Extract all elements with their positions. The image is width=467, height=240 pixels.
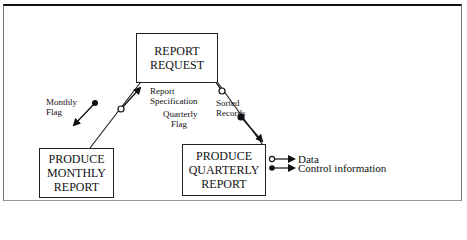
node-label: REPORT <box>154 44 199 58</box>
legend-data-symbol <box>269 156 294 161</box>
node-label: PRODUCE <box>196 149 252 163</box>
quarterly-flag-label: Quarterly Flag <box>163 109 197 129</box>
monthly-flag-label: Monthly Flag <box>46 97 77 117</box>
legend-control-symbol <box>269 165 294 171</box>
legend-control-label: Control information <box>298 162 386 174</box>
connector-monthly <box>90 83 140 148</box>
label-line: Flag <box>46 107 77 117</box>
report-specification-arrow <box>118 88 140 112</box>
produce-quarterly-report-node: PRODUCE QUARTERLY REPORT <box>182 144 266 196</box>
node-label: PRODUCE <box>48 152 104 166</box>
report-request-node: REPORT REQUEST <box>136 33 218 83</box>
label-line: Flag <box>163 119 197 129</box>
node-label: REPORT <box>201 177 246 191</box>
quarterly-flag-arrow <box>238 114 262 141</box>
label-line: Quarterly <box>163 109 197 119</box>
label-line: Monthly <box>46 97 77 107</box>
produce-monthly-report-node: PRODUCE MONTHLY REPORT <box>39 148 114 198</box>
label-line: Sorted <box>216 98 246 108</box>
label-line: Report <box>150 86 197 96</box>
label-line: Specification <box>150 96 197 106</box>
sorted-records-label: Sorted Records <box>216 98 246 118</box>
node-label: MONTHLY <box>47 166 106 180</box>
node-label: QUARTERLY <box>189 163 260 177</box>
node-label: REQUEST <box>150 58 204 72</box>
label-line: Records <box>216 108 246 118</box>
node-label: REPORT <box>54 180 99 194</box>
report-specification-label: Report Specification <box>150 86 197 106</box>
monthly-flag-arrow <box>74 100 98 125</box>
